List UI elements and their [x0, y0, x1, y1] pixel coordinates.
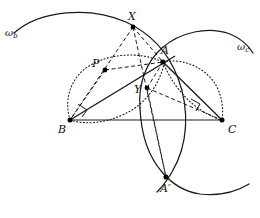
point-X	[131, 25, 136, 30]
label-point-X: X	[128, 11, 136, 22]
label-point-A-prime: A′	[160, 183, 170, 194]
label-omega-c: ωc	[237, 42, 249, 54]
point-C	[220, 118, 225, 123]
label-point-Y: Y	[134, 84, 141, 95]
point-B	[68, 118, 73, 123]
label-point-P: P	[92, 58, 99, 69]
segment-AC	[163, 62, 222, 120]
figure-canvas	[0, 0, 260, 218]
label-point-A: A	[161, 45, 169, 56]
point-A	[160, 59, 165, 64]
point-dots	[68, 25, 225, 180]
label-point-C: C	[228, 124, 236, 135]
segment-YC	[147, 88, 222, 120]
segment-XB	[70, 27, 133, 120]
dashed-segments	[70, 27, 222, 177]
geometry-figure: ωb ωc X A P Y B C A′	[0, 0, 260, 218]
label-omega-b-subscript: b	[13, 32, 17, 40]
point-Y	[145, 86, 150, 91]
label-omega-b: ωb	[5, 28, 18, 40]
label-point-B: B	[58, 124, 66, 135]
label-omega-c-subscript: c	[245, 46, 249, 54]
segment-AY	[147, 62, 163, 88]
segment-BA	[70, 56, 175, 120]
point-P	[103, 68, 108, 73]
point-A-prime	[164, 175, 169, 180]
